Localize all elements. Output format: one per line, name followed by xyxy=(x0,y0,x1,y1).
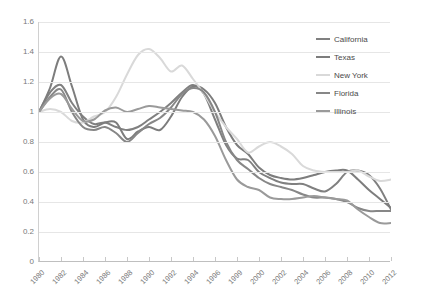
x-axis-tick xyxy=(105,257,106,261)
x-axis-tick xyxy=(391,257,392,261)
x-axis-tick xyxy=(39,257,40,261)
x-axis-tick-label: 1990 xyxy=(130,268,156,294)
y-axis-tick-label: 1.2 xyxy=(4,78,34,86)
chart-legend: CaliforniaTexasNew YorkFloridaIllinois xyxy=(316,30,424,120)
y-axis-tick-label: 0 xyxy=(4,258,34,266)
legend-item-california[interactable]: California xyxy=(316,30,424,48)
legend-swatch-icon xyxy=(316,92,330,95)
x-axis-tick xyxy=(237,257,238,261)
legend-swatch-icon xyxy=(316,56,330,59)
x-axis-tick xyxy=(193,257,194,261)
x-axis-tick-label: 1992 xyxy=(152,268,178,294)
y-axis-tick-label: 0.4 xyxy=(4,198,34,206)
x-axis-tick xyxy=(325,257,326,261)
x-axis-tick-label: 1988 xyxy=(108,268,134,294)
legend-swatch-icon xyxy=(316,110,330,113)
x-axis-tick-label: 2008 xyxy=(328,268,354,294)
legend-label: Texas xyxy=(334,53,355,62)
gridline xyxy=(39,172,390,173)
x-axis-tick-label: 1986 xyxy=(86,268,112,294)
legend-label: Florida xyxy=(334,89,358,98)
chart-container: 00.20.40.60.811.21.41.6 1980198219841986… xyxy=(0,0,426,301)
legend-item-florida[interactable]: Florida xyxy=(316,84,424,102)
legend-swatch-icon xyxy=(316,38,330,41)
x-axis-tick-label: 1980 xyxy=(20,268,46,294)
x-axis-tick-label: 2010 xyxy=(350,268,376,294)
x-axis-tick xyxy=(281,257,282,261)
legend-label: New York xyxy=(334,71,368,80)
x-axis-tick-label: 1994 xyxy=(174,268,200,294)
x-axis-tick xyxy=(259,257,260,261)
legend-item-texas[interactable]: Texas xyxy=(316,48,424,66)
y-axis-tick-label: 1 xyxy=(4,108,34,116)
x-axis-tick xyxy=(127,257,128,261)
y-axis-tick-label: 1.6 xyxy=(4,18,34,26)
legend-item-illinois[interactable]: Illinois xyxy=(316,102,424,120)
x-axis-tick-label: 2006 xyxy=(306,268,332,294)
gridline xyxy=(39,202,390,203)
legend-item-new-york[interactable]: New York xyxy=(316,66,424,84)
x-axis-tick-label: 1984 xyxy=(64,268,90,294)
y-axis-tick-label: 0.2 xyxy=(4,228,34,236)
legend-swatch-icon xyxy=(316,74,330,77)
x-axis-tick xyxy=(171,257,172,261)
x-axis-tick-label: 2000 xyxy=(240,268,266,294)
x-axis-tick-label: 1982 xyxy=(42,268,68,294)
legend-label: California xyxy=(334,35,368,44)
y-axis-tick-label: 0.6 xyxy=(4,168,34,176)
x-axis-tick-label: 2012 xyxy=(372,268,398,294)
y-axis-tick-label: 1.4 xyxy=(4,48,34,56)
x-axis-tick-label: 1999 xyxy=(218,268,244,294)
x-axis-tick xyxy=(215,257,216,261)
x-axis-tick xyxy=(303,257,304,261)
gridline xyxy=(39,142,390,143)
gridline xyxy=(39,22,390,23)
x-axis-tick xyxy=(149,257,150,261)
x-axis-tick xyxy=(369,257,370,261)
x-axis-tick xyxy=(347,257,348,261)
x-axis-tick-label: 2002 xyxy=(262,268,288,294)
gridline xyxy=(39,232,390,233)
y-axis-tick-label: 0.8 xyxy=(4,138,34,146)
x-axis-tick-label: 2004 xyxy=(284,268,310,294)
legend-label: Illinois xyxy=(334,107,356,116)
x-axis-tick xyxy=(61,257,62,261)
x-axis-tick-label: 1996 xyxy=(196,268,222,294)
x-axis-tick xyxy=(83,257,84,261)
